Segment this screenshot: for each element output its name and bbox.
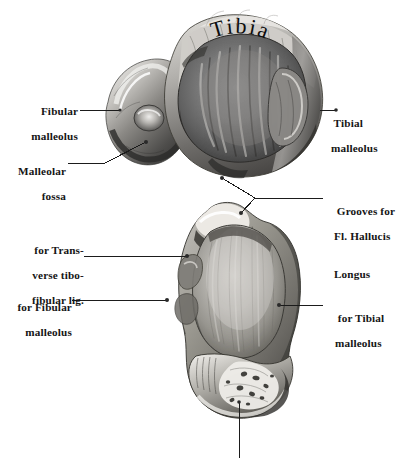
- label-for-tibial-malleolus: for Tibial malleolus: [326, 299, 410, 375]
- label-fibular-malleolus: Fibular malleolus: [0, 92, 78, 155]
- label-fibular-malleolus-line-1: Fibular: [41, 105, 78, 117]
- label-grooves-fl-hallucis-longus: Grooves for Fl. Hallucis Longus: [325, 192, 410, 305]
- anatomical-plate: Tibia: [0, 0, 410, 458]
- lower-figure-bone-illustration: [140, 198, 330, 428]
- label-tibial-malleolus: Tibial malleolus: [322, 104, 410, 180]
- label-fibular-malleolus-line-2: malleolus: [31, 130, 78, 142]
- label-grooves-line-2: Fl. Hallucis: [325, 230, 410, 243]
- label-malleolar-fossa-line-1: Malleolar: [18, 165, 66, 177]
- label-for-fibular-line-2: malleolus: [25, 326, 72, 338]
- label-malleolar-fossa: Malleolar fossa: [0, 152, 66, 215]
- upper-figure-bone-illustration: Tibia: [86, 6, 336, 196]
- label-transverse-line-1: for Trans-: [34, 244, 84, 256]
- label-grooves-line-1: Grooves for: [337, 205, 395, 217]
- label-tibial-malleolus-line-1: Tibial: [334, 117, 363, 129]
- talus-neck-and-head: [189, 354, 293, 417]
- label-for-fibular-line-1: for Fibular: [17, 301, 72, 313]
- label-transverse-line-2: verse tibo-: [32, 269, 84, 281]
- label-grooves-line-3: Longus: [325, 268, 410, 281]
- label-for-tibial-line-2: malleolus: [326, 337, 410, 350]
- label-tibial-malleolus-line-2: malleolus: [322, 142, 410, 155]
- label-for-fibular-malleolus: for Fibular malleolus: [0, 288, 72, 351]
- label-malleolar-fossa-line-2: fossa: [42, 190, 66, 202]
- label-for-tibial-line-1: for Tibial: [338, 312, 385, 324]
